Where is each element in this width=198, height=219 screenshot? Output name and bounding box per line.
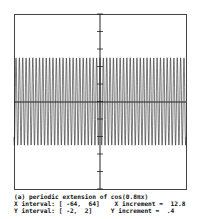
- plot-area: [0, 0, 198, 192]
- chart-title: (a) periodic extension of cos(0.8πx): [14, 193, 148, 200]
- x-interval-info: X interval: [ -64, 64] X increment = 12.…: [14, 200, 185, 207]
- y-interval-info: Y interval: [ -2, 2] Y increment = .4: [14, 207, 174, 214]
